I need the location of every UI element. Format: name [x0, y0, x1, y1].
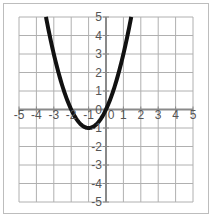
x-tick-label: 2	[137, 108, 144, 122]
y-tick-label: 2	[95, 66, 102, 80]
x-tick-label: -2	[66, 108, 77, 122]
x-tick-label: 3	[155, 108, 162, 122]
y-tick-label: 3	[95, 47, 102, 61]
y-tick-label: -2	[91, 140, 102, 154]
x-tick-label: 0	[108, 108, 115, 122]
y-tick-label: -5	[91, 195, 102, 209]
y-tick-label: -3	[91, 158, 102, 172]
x-tick-label: 5	[190, 108, 197, 122]
x-tick-label: 1	[120, 108, 127, 122]
y-tick-label: -4	[91, 177, 102, 191]
y-tick-label: 1	[95, 84, 102, 98]
x-tick-label: -4	[31, 108, 42, 122]
x-tick-label: -3	[48, 108, 59, 122]
x-tick-label: -5	[14, 108, 25, 122]
y-tick-label: 4	[95, 29, 102, 43]
x-tick-label: 4	[172, 108, 179, 122]
y-tick-label: 0	[95, 103, 102, 117]
x-tick-label: -1	[83, 108, 94, 122]
y-tick-label: 5	[95, 10, 102, 24]
y-tick-label: -1	[91, 121, 102, 135]
parabola-chart: -5-4-3-2-112345543210-1-2-3-4-50	[0, 0, 213, 219]
